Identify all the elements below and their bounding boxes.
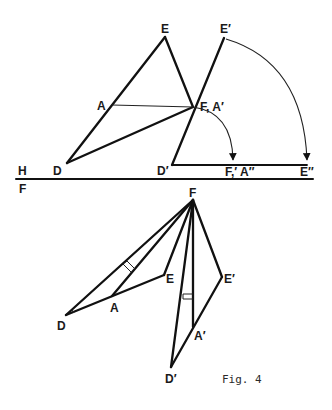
edge-F-D <box>66 200 193 315</box>
label-E-bottom: E <box>166 272 174 286</box>
arc-F-to-FA2 <box>193 107 233 160</box>
edge-D-E <box>67 37 165 163</box>
top-view: E A F, A′ D E′ D′ F,′ A″ E″ <box>53 22 314 179</box>
edge-F-D1 <box>171 200 193 367</box>
label-E: E <box>161 22 169 36</box>
arc-E1-to-E2 <box>226 39 307 160</box>
label-E1-bottom: E′ <box>224 272 235 286</box>
label-A1-bottom: A′ <box>194 329 206 343</box>
figure-caption: Fig. 4 <box>222 373 262 386</box>
label-E2: E″ <box>300 165 314 179</box>
label-F-A2: F,′ A″ <box>225 165 255 179</box>
label-D: D <box>53 164 62 178</box>
label-E1: E′ <box>220 22 231 36</box>
label-H: H <box>18 164 27 178</box>
label-F-A1: F, A′ <box>200 100 224 114</box>
perpendicular-mark-right <box>183 294 193 299</box>
label-A: A <box>97 99 106 113</box>
label-D1: D′ <box>157 164 169 178</box>
edge-E-F <box>165 37 193 107</box>
edge-D1-E1 <box>171 277 222 367</box>
edge-F-E1 <box>193 200 222 277</box>
edge-D-F <box>67 107 193 163</box>
label-F-bottom: F <box>189 186 196 200</box>
edge-A-F <box>112 105 193 107</box>
bottom-view: F D A E E′ A′ D′ Fig. 4 <box>57 186 262 386</box>
label-A-bottom: A <box>110 301 119 315</box>
edge-F-A <box>112 200 193 296</box>
label-D-bottom: D <box>57 319 66 333</box>
label-D1-bottom: D′ <box>165 372 177 386</box>
label-F-plane: F <box>19 182 26 196</box>
geometry-diagram: E A F, A′ D E′ D′ F,′ A″ E″ H F <box>0 0 332 410</box>
